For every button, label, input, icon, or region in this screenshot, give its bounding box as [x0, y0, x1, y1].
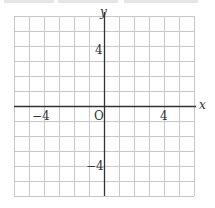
- y-tick-label-pos4: 4: [95, 44, 103, 56]
- x-tick-label-pos4: 4: [160, 110, 168, 122]
- y-tick-label-neg4: −4: [86, 160, 104, 172]
- y-axis-label: y: [100, 6, 107, 18]
- coordinate-grid: [0, 0, 215, 208]
- origin-label: O: [94, 110, 104, 122]
- x-axis-label: x: [199, 99, 206, 111]
- x-tick-label-neg4: −4: [32, 110, 50, 122]
